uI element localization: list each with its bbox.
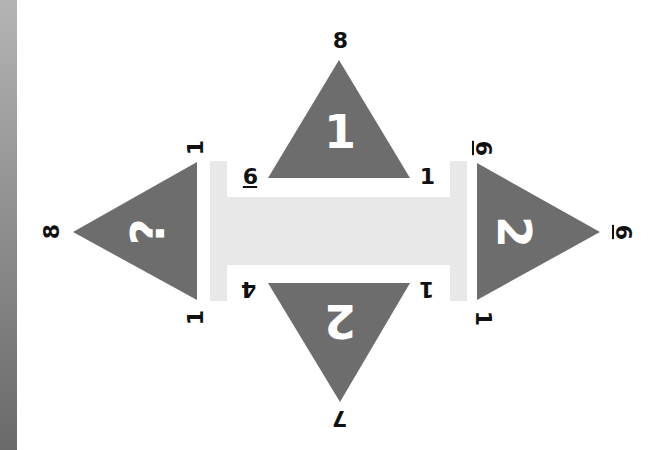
bottom-triangle-right-label: 1	[415, 276, 439, 300]
right-triangle-center-label: 2	[489, 207, 539, 257]
bottom-triangle-center-label: 2	[315, 296, 365, 346]
beam-middle-band	[210, 197, 467, 265]
left-triangle-apex-label: 8	[41, 220, 65, 244]
bottom-triangle-apex-label: 7	[328, 405, 352, 429]
puzzle-diagram	[0, 0, 664, 450]
left-triangle-top-label: 1	[185, 136, 209, 160]
right-triangle-bottom-label: 1	[470, 306, 494, 330]
top-triangle-center-label: 1	[315, 107, 365, 157]
top-triangle-right-label: 1	[415, 166, 439, 190]
top-triangle-left-label: 6	[238, 166, 262, 190]
bottom-triangle-left-label: 4	[237, 276, 261, 300]
left-triangle-bottom-label: 1	[185, 306, 209, 330]
right-triangle-top-label: 6	[470, 136, 494, 160]
right-triangle-apex-label: 6	[610, 220, 634, 244]
top-triangle-apex-label: 8	[328, 30, 352, 54]
left-triangle-center-label: ?	[123, 207, 173, 257]
